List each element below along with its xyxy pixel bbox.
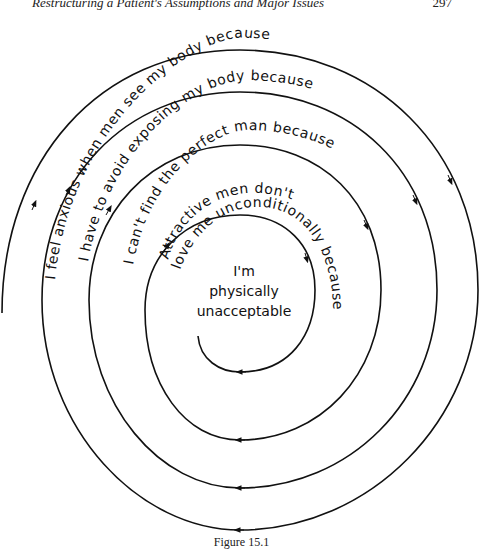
spiral-diagram: I feel anxious when men see my body beca…: [0, 0, 483, 551]
figure-caption: Figure 15.1: [0, 535, 483, 550]
ring-1-label: I feel anxious when men see my body beca…: [42, 24, 271, 280]
core-belief-line2: physically: [209, 283, 279, 299]
core-belief-line1: I'm: [233, 263, 255, 279]
arrow-up-icon: [32, 203, 35, 210]
core-belief-line3: unacceptable: [197, 303, 292, 319]
arrow-down-icon: [448, 175, 451, 182]
arrow-up-icon: [106, 208, 110, 215]
ring-3-label: I can't find the perfect man because: [120, 117, 338, 266]
core-belief: I'm physically unacceptable: [197, 263, 292, 319]
